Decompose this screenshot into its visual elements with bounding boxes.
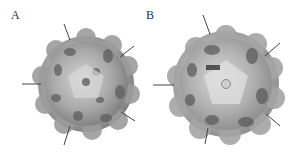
capsid-b [167,25,285,145]
pointer-a-1 [64,24,70,40]
panel-label-b: B [146,9,154,21]
pointer-b-2 [265,43,280,56]
capsid-a [32,28,140,140]
pointer-b-1 [203,15,210,34]
panel-label-a: A [11,9,20,21]
figure-canvas [0,0,290,160]
pointer-a-2 [120,46,134,57]
